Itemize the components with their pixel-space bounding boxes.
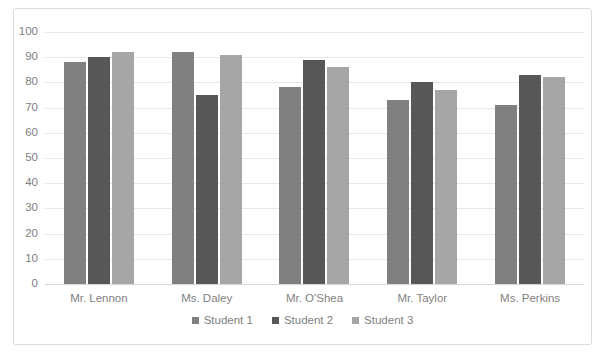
bar-groups: Mr. LennonMs. DaleyMr. O'SheaMr. TaylorM… — [45, 32, 584, 284]
bar[interactable] — [64, 62, 86, 284]
x-axis-label: Mr. Lennon — [45, 293, 153, 305]
x-axis-label: Mr. Taylor — [368, 293, 476, 305]
bar[interactable] — [543, 77, 565, 284]
legend-item[interactable]: Student 1 — [192, 315, 253, 327]
bar-set — [476, 32, 584, 284]
y-axis-tick-70: 70 — [25, 102, 38, 114]
bar[interactable] — [88, 57, 110, 284]
bar-set — [45, 32, 153, 284]
bar[interactable] — [303, 60, 325, 284]
legend-label: Student 3 — [364, 315, 413, 327]
bar[interactable] — [279, 87, 301, 284]
bar-group: Ms. Daley — [153, 32, 261, 284]
bar[interactable] — [172, 52, 194, 284]
y-axis-tick-20: 20 — [25, 228, 38, 240]
bar[interactable] — [519, 75, 541, 284]
legend-item[interactable]: Student 3 — [352, 315, 413, 327]
bar[interactable] — [435, 90, 457, 284]
bar[interactable] — [495, 105, 517, 284]
bar-group: Mr. Taylor — [368, 32, 476, 284]
legend-swatch-icon — [352, 317, 359, 324]
bar-set — [153, 32, 261, 284]
legend-swatch-icon — [192, 317, 199, 324]
bar-set — [368, 32, 476, 284]
legend-item[interactable]: Student 2 — [272, 315, 333, 327]
y-axis-tick-10: 10 — [25, 253, 38, 265]
y-axis-tick-30: 30 — [25, 203, 38, 215]
chart-legend: Student 1Student 2Student 3 — [14, 315, 591, 327]
bar[interactable] — [112, 52, 134, 284]
y-axis-tick-80: 80 — [25, 77, 38, 89]
legend-swatch-icon — [272, 317, 279, 324]
x-axis-label: Ms. Daley — [153, 293, 261, 305]
legend-label: Student 1 — [204, 315, 253, 327]
x-axis-label: Ms. Perkins — [476, 293, 584, 305]
bar-group: Mr. Lennon — [45, 32, 153, 284]
bar[interactable] — [220, 55, 242, 284]
plot-area: 1009080706050403020100 Mr. LennonMs. Dal… — [45, 32, 584, 284]
y-axis-tick-60: 60 — [25, 127, 38, 139]
legend-label: Student 2 — [284, 315, 333, 327]
gridline-0 — [45, 284, 584, 285]
x-axis-label: Mr. O'Shea — [261, 293, 369, 305]
y-axis-tick-50: 50 — [25, 152, 38, 164]
bar-set — [261, 32, 369, 284]
chart-container: 1009080706050403020100 Mr. LennonMs. Dal… — [13, 8, 592, 345]
y-axis-tick-100: 100 — [19, 26, 38, 38]
bar[interactable] — [411, 82, 433, 284]
bar-group: Mr. O'Shea — [261, 32, 369, 284]
y-axis-tick-40: 40 — [25, 177, 38, 189]
bar[interactable] — [387, 100, 409, 284]
bar-group: Ms. Perkins — [476, 32, 584, 284]
y-axis-tick-90: 90 — [25, 51, 38, 63]
bar[interactable] — [196, 95, 218, 284]
bar[interactable] — [327, 67, 349, 284]
y-axis-tick-0: 0 — [32, 278, 38, 290]
